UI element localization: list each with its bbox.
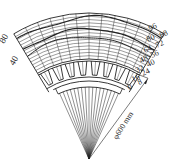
fan-ray: [81, 87, 89, 159]
ring-edge: [56, 89, 59, 94]
fan-ray: [89, 91, 111, 159]
dimension-label: φ600 mm: [111, 109, 136, 141]
grid-radial: [14, 34, 38, 73]
grid-radial: [116, 18, 128, 62]
left-scale-label: 40: [7, 54, 20, 67]
fan-ray: [74, 89, 89, 159]
fan-ray: [89, 92, 115, 159]
dimension-arrow-icon: [144, 78, 148, 84]
tooth-midline: [106, 63, 109, 77]
fan-ray: [89, 87, 97, 159]
right-scale-label: 8: [136, 77, 143, 87]
ring-edge: [120, 89, 123, 94]
fan-ray: [67, 91, 89, 159]
tooth-midline: [82, 61, 83, 75]
left-scale-label: 80: [0, 32, 10, 45]
fan-ray: [63, 92, 89, 159]
sector-diagram: 8040968064483216088725640248φ600 mm: [0, 0, 184, 168]
grid-radial: [107, 15, 115, 60]
tooth-midline: [95, 61, 96, 75]
teeth-band-outer-arc: [39, 61, 140, 75]
fan-ray: [89, 93, 118, 159]
tooth-slot: [40, 70, 52, 85]
tooth-midline: [69, 63, 72, 77]
fan-ray: [60, 93, 89, 159]
